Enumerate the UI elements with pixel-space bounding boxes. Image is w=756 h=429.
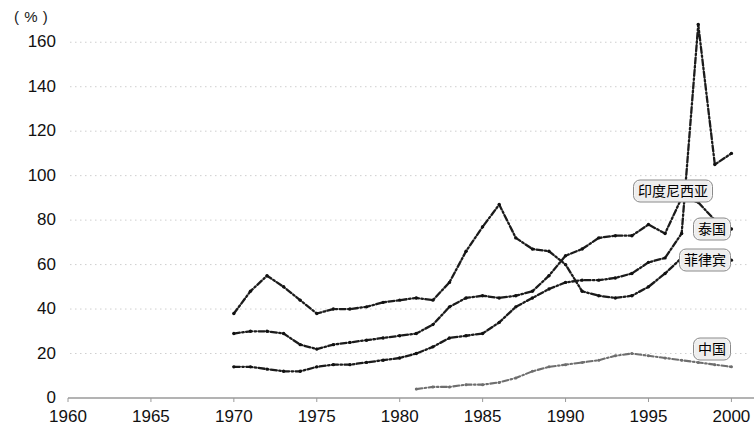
y-axis-tick-label: 0 — [0, 388, 56, 408]
data-point — [481, 332, 484, 335]
data-point — [315, 347, 318, 350]
data-point — [249, 330, 252, 333]
series-line — [234, 198, 732, 349]
x-axis-tick-label: 1985 — [464, 407, 502, 427]
x-axis-tick-label: 1980 — [381, 407, 419, 427]
data-point — [431, 385, 434, 388]
data-point — [680, 359, 683, 362]
data-point — [431, 345, 434, 348]
data-point — [514, 305, 517, 308]
line-chart-plot — [0, 0, 756, 429]
data-point — [298, 370, 301, 373]
data-point — [464, 296, 467, 299]
y-axis-tick-label: 20 — [0, 344, 56, 364]
data-point — [647, 261, 650, 264]
data-point — [332, 343, 335, 346]
data-point — [232, 365, 235, 368]
data-point — [630, 294, 633, 297]
axes-group — [68, 398, 754, 402]
data-point — [647, 354, 650, 357]
data-point — [564, 363, 567, 366]
x-axis-tick-label: 2000 — [712, 407, 750, 427]
data-point — [498, 321, 501, 324]
y-axis-tick-label: 60 — [0, 255, 56, 275]
data-point — [315, 365, 318, 368]
data-point — [415, 352, 418, 355]
data-point — [232, 332, 235, 335]
data-point — [481, 225, 484, 228]
data-point — [348, 341, 351, 344]
data-point — [630, 352, 633, 355]
series-lines-group — [232, 23, 733, 391]
data-point — [448, 281, 451, 284]
data-point — [398, 334, 401, 337]
data-point — [531, 290, 534, 293]
data-point — [332, 363, 335, 366]
data-point — [464, 250, 467, 253]
data-point — [415, 296, 418, 299]
data-point — [415, 388, 418, 391]
data-point — [398, 356, 401, 359]
data-point — [381, 336, 384, 339]
y-axis-tick-label: 40 — [0, 299, 56, 319]
data-point — [481, 294, 484, 297]
data-point — [381, 301, 384, 304]
data-point — [265, 330, 268, 333]
data-point — [315, 312, 318, 315]
data-point — [465, 383, 468, 386]
data-point — [282, 370, 285, 373]
data-point — [448, 385, 451, 388]
data-point — [647, 285, 650, 288]
data-point — [663, 256, 666, 259]
data-point — [481, 383, 484, 386]
series-label-4: 中国 — [693, 338, 731, 361]
data-point — [547, 250, 550, 253]
data-point — [365, 361, 368, 364]
data-point — [298, 343, 301, 346]
series-label-2: 泰国 — [693, 218, 731, 241]
data-point — [498, 381, 501, 384]
data-point — [564, 254, 567, 257]
data-point — [547, 365, 550, 368]
data-point — [547, 287, 550, 290]
data-point — [630, 234, 633, 237]
data-point — [498, 203, 501, 206]
data-point — [597, 236, 600, 239]
data-point — [697, 23, 700, 26]
data-point — [614, 276, 617, 279]
data-point — [448, 305, 451, 308]
data-point — [597, 359, 600, 362]
x-axis-tick-label: 1990 — [547, 407, 585, 427]
series-label-1: 印度尼西亚 — [633, 180, 713, 203]
data-point — [547, 274, 550, 277]
y-axis-tick-label: 120 — [0, 121, 56, 141]
data-point — [464, 334, 467, 337]
data-point — [697, 361, 700, 364]
data-point — [498, 296, 501, 299]
data-point — [614, 234, 617, 237]
data-point — [265, 367, 268, 370]
series-label-3: 菲律宾 — [679, 249, 731, 272]
y-axis-tick-label: 100 — [0, 166, 56, 186]
data-point — [381, 359, 384, 362]
data-point — [365, 305, 368, 308]
data-point — [431, 323, 434, 326]
data-point — [614, 354, 617, 357]
data-point — [348, 363, 351, 366]
data-point — [531, 247, 534, 250]
data-point — [580, 290, 583, 293]
x-axis-tick-label: 1960 — [49, 407, 87, 427]
data-point — [713, 163, 716, 166]
chart-container: ( % ) 020406080100120140160 196019651970… — [0, 0, 756, 429]
data-point — [415, 332, 418, 335]
x-axis-tick-label: 1965 — [132, 407, 170, 427]
data-point — [531, 370, 534, 373]
data-point — [514, 376, 517, 379]
data-point — [630, 272, 633, 275]
data-point — [298, 298, 301, 301]
data-point — [348, 307, 351, 310]
data-point — [597, 294, 600, 297]
data-point — [730, 365, 733, 368]
data-point — [597, 278, 600, 281]
data-point — [531, 296, 534, 299]
